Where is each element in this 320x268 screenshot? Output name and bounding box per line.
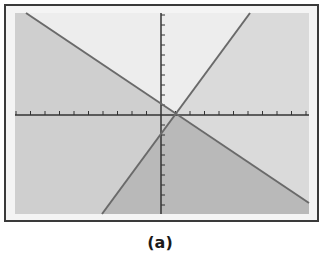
figure-caption: (a) [0, 233, 320, 252]
graph-figure [0, 0, 320, 268]
